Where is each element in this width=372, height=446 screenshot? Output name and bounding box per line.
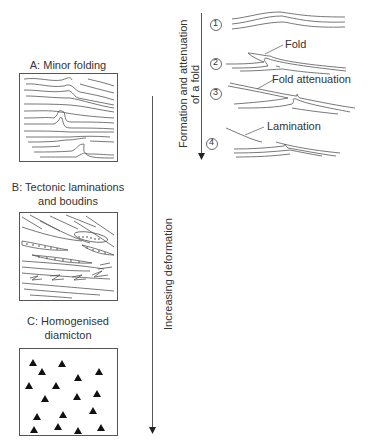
stage-3-number: 3 xyxy=(213,87,218,97)
stage-4-number: 4 xyxy=(209,137,214,147)
fold-annotation: Fold xyxy=(285,38,306,50)
fold-attenuation-annotation: Fold attenuation xyxy=(272,73,351,85)
fold-leader-line xyxy=(265,45,283,54)
stage-2-number: 2 xyxy=(213,57,218,67)
stage-3-attenuated-fold-layers xyxy=(228,83,355,114)
stage-2-fold-layers xyxy=(226,53,346,74)
fold-sequence-axis-label-line2: of a fold xyxy=(189,65,202,104)
increasing-deformation-label: Increasing deformation xyxy=(162,218,175,330)
lamination-leader-line xyxy=(245,127,264,135)
lamination-annotation: Lamination xyxy=(267,120,321,132)
fold-attenuation-leader-line xyxy=(257,80,273,89)
stage-4-lamination-layers xyxy=(226,128,340,157)
stage-1-number: 1 xyxy=(213,18,218,28)
stage-1-layers xyxy=(232,12,345,29)
increasing-deformation-arrow xyxy=(149,96,156,434)
